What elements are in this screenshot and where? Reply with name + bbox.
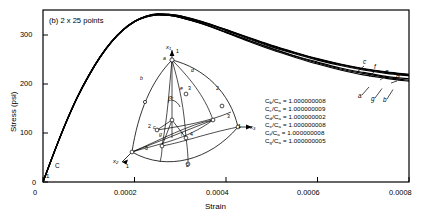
legend-row-g: Cg/Ca = 1.000000005: [265, 137, 326, 145]
inset-axis-x2-subscript: 2: [116, 160, 118, 165]
inset-point-label-g: g: [159, 132, 162, 137]
inset-point-label-b: b: [140, 76, 143, 81]
inset-number-label-1-right: 1: [238, 124, 241, 129]
legend-value-2: 1.000000002: [288, 113, 325, 120]
legend-row-d: Cd/Ca = 1.000000002: [265, 113, 326, 121]
inset-number-label-2-left: 2: [148, 124, 151, 129]
y-axis-title: Stress (psi): [10, 92, 18, 132]
x-tick-label-0.0002: 0.0002: [114, 189, 137, 196]
y-tick-label-100: 100: [20, 129, 32, 136]
curve-end-label-b: b: [383, 97, 387, 103]
curve-end-label-f: f: [374, 64, 376, 70]
inset-axis-x2-label: x2: [113, 158, 118, 165]
inset-number-label-3-mid: 3: [188, 86, 191, 91]
inset-number-label-2-bottom: 2: [186, 163, 189, 168]
legend-value-1: 1.000000009: [288, 105, 325, 112]
inset-axis-x1-label: x1: [166, 44, 171, 51]
figure-panel: (b) 2 x 25 points Stress (psi) 0 100 200…: [0, 0, 435, 217]
legend-row-c: Cc/Ca = 1.000000009: [265, 105, 326, 113]
inset-number-label-4-mid: 4: [190, 132, 193, 137]
legend-value-3: 1.000000008: [288, 121, 325, 128]
y-tick-label-200: 200: [20, 80, 32, 87]
panel-label: (b) 2 x 25 points: [49, 17, 103, 25]
origin-annotation-1: 1: [46, 173, 49, 179]
inset-point-label-d: d: [191, 68, 194, 73]
inset-orientation-diagram: [112, 42, 258, 178]
y-tick-label-0: 0: [32, 179, 36, 186]
inset-axis-x3-subscript: 3: [253, 126, 255, 131]
y-tick-label-300: 300: [20, 31, 32, 38]
curve-end-label-c: c: [363, 59, 366, 65]
legend-value-0: 1.000000008: [288, 97, 325, 104]
x-tick-label-0.0004: 0.0004: [206, 189, 229, 196]
inset-number-label-1-top: 1: [176, 49, 179, 54]
x-tick-label-0.0006: 0.0006: [297, 189, 320, 196]
inset-point-label-f: f: [181, 132, 182, 137]
inset-point-label-c: c: [153, 125, 156, 130]
legend: Cb/Ca = 1.000000008Cc/Ca = 1.000000009Cd…: [265, 97, 326, 145]
legend-row-e: Ce/Ca = 1.000000008: [265, 121, 326, 129]
x-tick-label-0: 0: [33, 189, 37, 196]
curve-end-label-e: e: [385, 69, 389, 75]
inset-number-label-5-lower: 5: [145, 146, 148, 151]
inset-number-label-3-lower: 3: [227, 114, 230, 119]
inset-axis-x1-subscript: 1: [169, 46, 171, 51]
inset-point-label-e: e: [180, 86, 183, 91]
curve-end-label-d: d: [396, 74, 400, 80]
legend-row-b: Cb/Ca = 1.000000008: [265, 97, 326, 105]
legend-value-4: 1.000000008: [287, 129, 324, 136]
curve-end-label-g: g: [371, 96, 375, 102]
inset-number-label-1-left: 1: [126, 164, 129, 169]
curve-end-label-a: a: [358, 93, 362, 99]
inset-angle-prime: ′: [172, 96, 173, 102]
origin-annotation-C: C: [55, 163, 60, 169]
legend-row-f: Cf/Ca = 1.000000008: [265, 129, 326, 137]
legend-value-5: 1.000000005: [288, 137, 325, 144]
x-axis-title: Strain: [205, 203, 226, 211]
inset-number-label-2-right: 2: [216, 86, 219, 91]
x-tick-label-0.0008: 0.0008: [389, 189, 412, 196]
inset-angle-beta-label: β′: [168, 95, 173, 102]
inset-axis-x3-label: x3: [250, 124, 255, 131]
inset-point-label-a: a: [163, 56, 166, 61]
